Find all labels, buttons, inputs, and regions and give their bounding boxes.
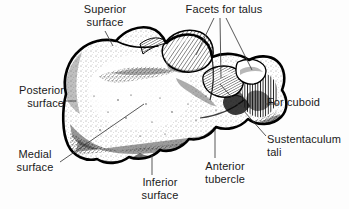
label-sustentaculum-tali: Sustentaculum tali: [267, 133, 349, 158]
label-anterior-tubercle: Anterior tubercle: [192, 160, 258, 185]
label-inferior-surface: Inferior surface: [130, 176, 190, 201]
anterior-talar-facet: [236, 59, 266, 84]
label-facets-for-talus: Facets for talus: [168, 3, 280, 16]
bone-body: [63, 27, 286, 164]
label-medial-surface: Medial surface: [5, 148, 65, 173]
label-for-cuboid: For cuboid: [267, 96, 347, 109]
label-posterior-surface: Posterior surface: [2, 84, 64, 109]
posterior-talar-facet: [162, 30, 213, 73]
label-superior-surface: Superior surface: [69, 3, 141, 28]
anatomical-figure: Superior surface Facets for talus Poster…: [0, 0, 349, 209]
